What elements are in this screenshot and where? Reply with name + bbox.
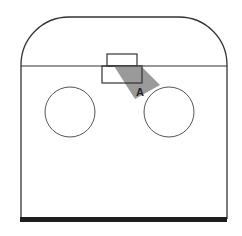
- goal-box: [107, 54, 137, 66]
- left-circle: [45, 87, 95, 137]
- right-circle: [144, 87, 194, 137]
- zone-diagram: A: [0, 0, 242, 236]
- outer-boundary: [21, 17, 227, 219]
- region-a-label: A: [136, 86, 144, 98]
- baseline-bar: [20, 217, 227, 222]
